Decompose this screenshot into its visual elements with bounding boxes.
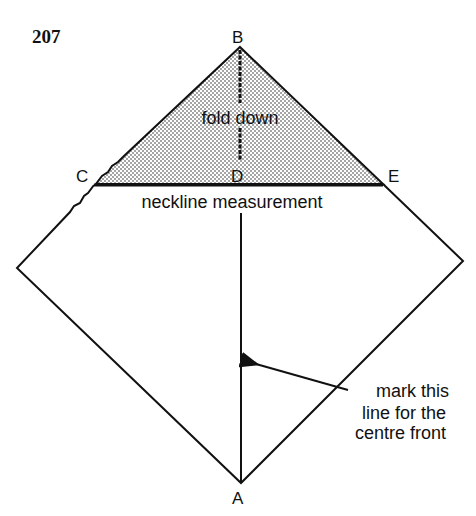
point-c-label: C xyxy=(76,167,88,186)
mark-label-line2: line for the xyxy=(362,403,446,423)
point-e-label: E xyxy=(388,167,399,186)
pattern-diagram: 207 B C D E A fold down neckline measure… xyxy=(0,0,476,516)
figure-number: 207 xyxy=(32,26,61,47)
mark-label-line3: centre front xyxy=(355,423,446,443)
pointer-arrow xyxy=(256,364,348,390)
fold-down-label: fold down xyxy=(201,108,278,128)
mark-label-line1: mark this xyxy=(376,381,449,401)
point-d-label: D xyxy=(231,167,243,186)
neckline-label: neckline measurement xyxy=(141,192,322,212)
point-a-label: A xyxy=(232,489,244,508)
point-b-label: B xyxy=(232,28,243,47)
